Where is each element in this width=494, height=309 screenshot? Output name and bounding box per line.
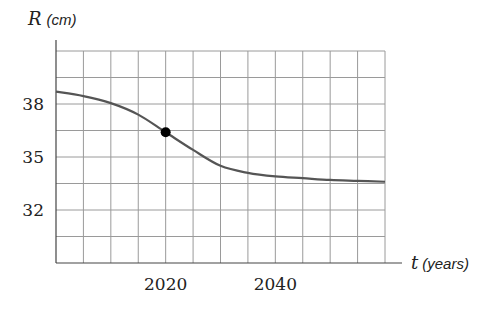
highlighted-points bbox=[161, 127, 171, 137]
grid-lines bbox=[56, 51, 385, 263]
y-tick-label: 35 bbox=[22, 147, 44, 167]
x-axis-label: t(years) bbox=[411, 252, 469, 273]
x-tick-labels: 20202040 bbox=[144, 274, 297, 294]
chart: 20202040 383532 R(cm) t(years) bbox=[0, 0, 494, 309]
y-tick-labels: 383532 bbox=[22, 94, 44, 220]
x-tick-label: 2020 bbox=[144, 274, 187, 294]
y-tick-label: 32 bbox=[22, 200, 44, 220]
data-point-marker bbox=[161, 127, 171, 137]
axes bbox=[56, 40, 402, 263]
y-tick-label: 38 bbox=[22, 94, 44, 114]
x-tick-label: 2040 bbox=[254, 274, 297, 294]
y-axis-label: R(cm) bbox=[27, 8, 77, 29]
